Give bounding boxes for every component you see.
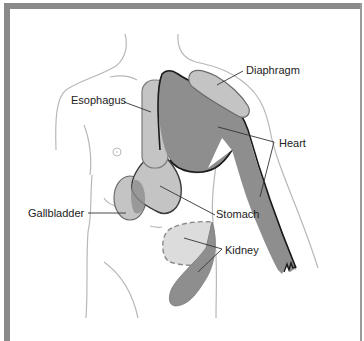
label-gallbladder: Gallbladder: [28, 207, 85, 219]
label-esophagus: Esophagus: [71, 94, 127, 106]
anatomy-figure: Esophagus Diaphragm Heart Gallbladder St…: [0, 0, 364, 341]
label-kidney: Kidney: [225, 244, 259, 256]
label-heart: Heart: [279, 137, 306, 149]
body-diagram: Esophagus Diaphragm Heart Gallbladder St…: [0, 0, 364, 341]
label-stomach: Stomach: [216, 208, 259, 220]
label-diaphragm: Diaphragm: [246, 64, 300, 76]
